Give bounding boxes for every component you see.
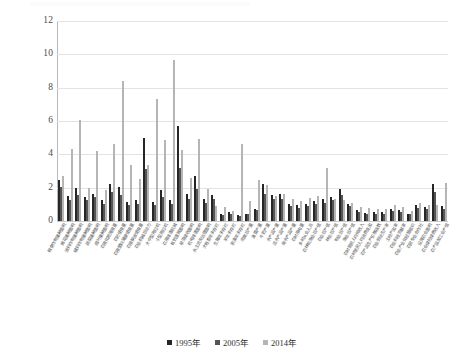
bar	[258, 180, 260, 221]
bar-group	[202, 21, 211, 221]
bar	[88, 188, 90, 221]
bar-group	[168, 21, 177, 221]
bar-group	[159, 21, 168, 221]
bar	[198, 139, 200, 221]
x-axis-tick-labels: 粮食作物播种面积棉花播种面积油料作物播种面积糖料作物播种面积蔬菜播种面积烟叶播种…	[57, 223, 448, 323]
chart-legend: 1995年2005年2014年	[0, 336, 464, 348]
legend-item[interactable]: 2014年	[263, 336, 297, 348]
bar-group	[74, 21, 83, 221]
bar	[317, 196, 319, 221]
bar-group	[57, 21, 66, 221]
bar	[275, 196, 277, 221]
bar-group	[108, 21, 117, 221]
bar	[445, 183, 447, 221]
legend-label: 2014年	[271, 336, 297, 348]
legend-swatch	[263, 340, 268, 345]
legend-item[interactable]: 1995年	[167, 336, 201, 348]
x-axis-line	[57, 221, 448, 222]
bar	[419, 203, 421, 221]
y-axis-tick-label: 4	[13, 149, 53, 159]
legend-label: 2005年	[223, 336, 249, 348]
bar	[428, 205, 430, 221]
bar-group	[193, 21, 202, 221]
bar-group	[185, 21, 194, 221]
bar-group	[100, 21, 109, 221]
bar	[300, 201, 302, 221]
bar	[164, 140, 166, 221]
bar	[139, 179, 141, 222]
bar-group	[66, 21, 75, 221]
bar	[436, 205, 438, 221]
bar-group	[312, 21, 321, 221]
y-axis-tick-label: 12	[13, 16, 53, 26]
y-axis-tick-label: 8	[13, 83, 53, 93]
bar-group	[125, 21, 134, 221]
bar	[62, 176, 64, 221]
bar	[147, 165, 149, 221]
top-scan-artifact	[30, 2, 250, 6]
bar-group	[304, 21, 313, 221]
bar	[190, 178, 192, 221]
bar-groups	[57, 21, 448, 221]
legend-item[interactable]: 2005年	[215, 336, 249, 348]
bar-group	[338, 21, 347, 221]
plot-area	[57, 21, 448, 221]
bar	[326, 168, 328, 221]
bar	[334, 199, 336, 221]
bar-group	[406, 21, 415, 221]
bar	[241, 144, 243, 221]
bar-group	[278, 21, 287, 221]
bar	[411, 211, 413, 221]
y-axis-tick-label: 2	[13, 183, 53, 193]
bar	[292, 199, 294, 222]
bar	[96, 151, 98, 221]
bar-group	[372, 21, 381, 221]
bar-group	[321, 21, 330, 221]
bar-group	[244, 21, 253, 221]
bar	[360, 207, 362, 221]
legend-swatch	[215, 340, 220, 345]
bar-group	[397, 21, 406, 221]
bar-group	[210, 21, 219, 221]
bar	[130, 165, 132, 221]
bar-group	[346, 21, 355, 221]
bar	[249, 201, 251, 221]
bar-group	[151, 21, 160, 221]
bar	[351, 203, 353, 221]
bar-group	[423, 21, 432, 221]
bar	[232, 211, 234, 221]
bar	[79, 120, 81, 221]
bar	[309, 198, 311, 221]
bar-group	[329, 21, 338, 221]
bar-group	[134, 21, 143, 221]
bar-group	[270, 21, 279, 221]
bar	[343, 200, 345, 221]
bar-group	[117, 21, 126, 221]
bar-group	[83, 21, 92, 221]
bar	[156, 99, 158, 222]
bar-group	[253, 21, 262, 221]
bar-group	[440, 21, 449, 221]
bar-group	[236, 21, 245, 221]
legend-label: 1995年	[175, 336, 201, 348]
bar	[71, 149, 73, 222]
bar	[122, 81, 124, 221]
bar	[368, 208, 370, 221]
bar	[215, 206, 217, 221]
bar-group	[431, 21, 440, 221]
bar	[181, 150, 183, 221]
bar	[402, 207, 404, 221]
bar-group	[295, 21, 304, 221]
bar-group	[227, 21, 236, 221]
bar	[113, 144, 115, 221]
bar	[283, 194, 285, 222]
bar-group	[261, 21, 270, 221]
bar-group	[219, 21, 228, 221]
bar-group	[389, 21, 398, 221]
legend-swatch	[167, 340, 172, 345]
bar	[385, 209, 387, 221]
bar-group	[142, 21, 151, 221]
y-axis-tick-label: 0	[13, 216, 53, 226]
bar	[173, 60, 175, 221]
y-axis-tick-labels: 024681012	[8, 21, 53, 221]
